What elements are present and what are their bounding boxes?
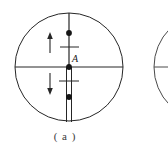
figure-container: A ( a ) <box>0 0 168 159</box>
node-center <box>66 64 72 70</box>
node-lower <box>66 94 72 100</box>
arrow-up-icon <box>47 32 53 53</box>
arrow-down-icon <box>47 73 53 95</box>
node-upper <box>66 30 72 36</box>
figure-caption: ( a ) <box>0 130 130 142</box>
point-label-A: A <box>72 53 78 64</box>
